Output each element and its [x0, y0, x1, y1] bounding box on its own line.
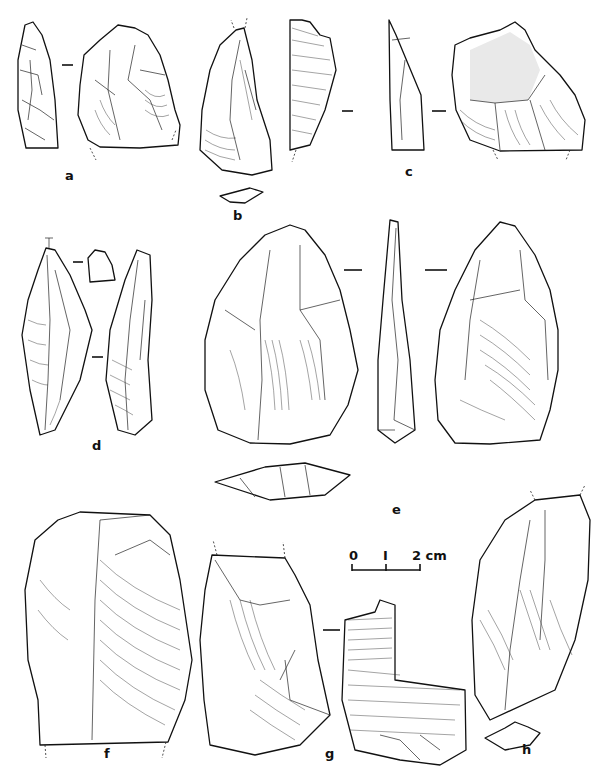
- artifact-e-profile: [378, 220, 415, 443]
- artifact-b-section: [220, 188, 263, 203]
- label-g: g: [325, 746, 334, 761]
- artifact-a-dorsal: [78, 25, 180, 160]
- artifact-drawings: [0, 0, 605, 768]
- artifact-c-ventral-fragment: [290, 20, 336, 162]
- artifact-e-face-1: [205, 225, 358, 444]
- scale-bar: [352, 564, 420, 571]
- artifact-g-dorsal: [200, 540, 330, 755]
- label-e: e: [392, 502, 401, 517]
- label-f: f: [104, 746, 110, 761]
- scale-tick-1: I: [383, 548, 388, 563]
- artifact-f-dorsal: [25, 512, 192, 758]
- artifact-a-profile: [18, 22, 58, 148]
- label-c: c: [405, 164, 413, 179]
- artifact-d-dorsal: [22, 238, 92, 435]
- label-d: d: [92, 438, 101, 453]
- artifact-c-profile: [389, 20, 424, 150]
- artifact-h-dorsal: [472, 485, 590, 720]
- label-b: b: [233, 208, 242, 223]
- artifact-h-section: [485, 722, 540, 750]
- scale-tick-0: 0: [349, 548, 358, 563]
- scale-tick-2: 2 cm: [412, 548, 447, 563]
- label-a: a: [65, 168, 74, 183]
- label-h: h: [522, 742, 531, 757]
- artifact-c-dorsal: [452, 22, 585, 160]
- artifact-b-dorsal: [200, 18, 272, 175]
- artifact-plate: [0, 0, 605, 768]
- artifact-e-face-2: [435, 222, 558, 444]
- artifact-e-section: [215, 463, 350, 500]
- artifact-d-platform: [88, 250, 115, 282]
- artifact-g-ventral-fragment: [342, 600, 466, 765]
